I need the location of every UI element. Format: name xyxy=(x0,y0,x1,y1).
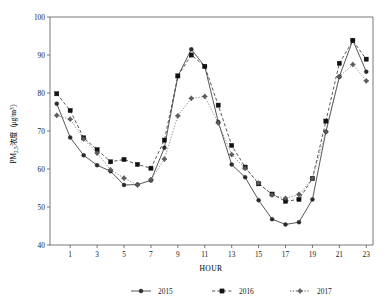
data-point-square xyxy=(149,166,153,170)
data-point-circle xyxy=(95,163,99,167)
chart-background xyxy=(0,0,386,302)
y-tick-label: 90 xyxy=(38,51,46,60)
data-point-square xyxy=(230,143,234,147)
x-tick-label: 11 xyxy=(201,250,208,259)
data-point-square xyxy=(220,289,224,293)
data-point-square xyxy=(55,92,59,96)
data-point-square xyxy=(297,197,301,201)
x-axis-title: HOUR xyxy=(199,264,223,273)
x-tick-label: 19 xyxy=(309,250,317,259)
data-point-circle xyxy=(162,146,166,150)
data-point-circle xyxy=(55,102,59,106)
data-point-square xyxy=(324,119,328,123)
data-point-circle xyxy=(68,135,72,139)
data-point-square xyxy=(122,157,126,161)
data-point-circle xyxy=(82,153,86,157)
x-tick-label: 23 xyxy=(363,250,371,259)
x-tick-label: 13 xyxy=(228,250,236,259)
x-tick-label: 17 xyxy=(282,250,290,259)
y-tick-label: 50 xyxy=(38,203,46,212)
y-tick-label: 80 xyxy=(38,89,46,98)
legend-label: 2015 xyxy=(158,287,173,296)
data-point-circle xyxy=(364,70,368,74)
data-point-square xyxy=(162,138,166,142)
data-point-circle xyxy=(257,198,261,202)
data-point-circle xyxy=(189,47,193,51)
legend-label: 2017 xyxy=(317,287,332,296)
x-tick-label: 9 xyxy=(176,250,180,259)
data-point-square xyxy=(108,160,112,164)
data-point-circle xyxy=(284,222,288,226)
x-tick-label: 3 xyxy=(95,250,99,259)
y-tick-label: 70 xyxy=(38,127,46,136)
x-tick-label: 1 xyxy=(68,250,72,259)
data-point-circle xyxy=(243,175,247,179)
chart-figure: 405060708090100 1357911131517192123 2015… xyxy=(0,0,386,302)
legend-label: 2016 xyxy=(239,287,254,296)
data-point-square xyxy=(337,61,341,65)
x-tick-label: 15 xyxy=(255,250,263,259)
x-tick-label: 21 xyxy=(336,250,344,259)
data-point-square xyxy=(364,57,368,61)
y-tick-label: 60 xyxy=(38,165,46,174)
data-point-square xyxy=(203,64,207,68)
x-tick-label: 7 xyxy=(149,250,153,259)
pm25-hourly-line-chart: 405060708090100 1357911131517192123 2015… xyxy=(0,0,386,302)
y-tick-label: 100 xyxy=(34,13,45,22)
data-point-circle xyxy=(297,220,301,224)
data-point-circle xyxy=(270,217,274,221)
data-point-circle xyxy=(139,289,143,293)
data-point-square xyxy=(189,53,193,57)
data-point-square xyxy=(68,108,72,112)
data-point-circle xyxy=(230,162,234,166)
data-point-square xyxy=(216,103,220,107)
x-tick-label: 5 xyxy=(122,250,126,259)
y-tick-label: 40 xyxy=(38,241,46,250)
data-point-circle xyxy=(310,197,314,201)
data-point-square xyxy=(135,162,139,166)
data-point-square xyxy=(176,74,180,78)
data-point-square xyxy=(351,38,355,42)
data-point-circle xyxy=(122,183,126,187)
